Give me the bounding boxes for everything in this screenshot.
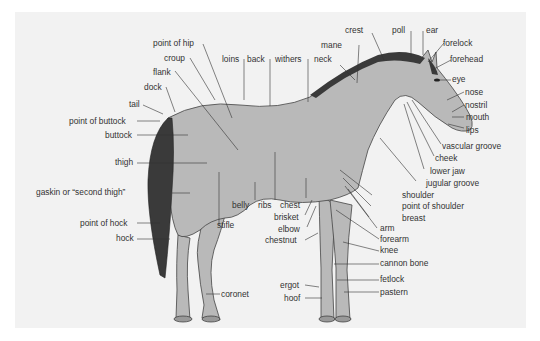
label-tail: tail — [129, 99, 140, 109]
label-breast: breast — [402, 213, 425, 223]
label-ear: ear — [426, 25, 438, 35]
label-forearm: forearm — [380, 234, 409, 244]
label-vascular-groove: vascular groove — [442, 141, 501, 151]
label-ergot: ergot — [280, 280, 299, 290]
label-stifle: stifle — [217, 220, 234, 230]
label-back: back — [247, 54, 265, 64]
label-brisket: brisket — [274, 212, 299, 222]
label-point-of-buttock: point of buttock — [69, 116, 126, 126]
label-poll: poll — [392, 25, 405, 35]
label-crest: crest — [345, 25, 363, 35]
label-point-of-hip: point of hip — [153, 38, 194, 48]
label-mane: mane — [321, 40, 342, 50]
label-dock: dock — [144, 82, 162, 92]
label-chest: chest — [280, 200, 300, 210]
label-belly: belly — [232, 200, 249, 210]
label-fetlock: fetlock — [380, 274, 404, 284]
label-nostril: nostril — [465, 100, 487, 110]
label-thigh: thigh — [115, 157, 133, 167]
label-shoulder: shoulder — [402, 190, 434, 200]
label-lower-jaw: lower jaw — [430, 166, 465, 176]
label-ribs: ribs — [258, 200, 272, 210]
label-croup: croup — [164, 53, 185, 63]
label-point-of-shoulder: point of shoulder — [402, 201, 464, 211]
label-point-of-hock: point of hock — [80, 218, 128, 228]
tail — [148, 118, 174, 278]
label-mouth: mouth — [466, 112, 489, 122]
label-buttock: buttock — [105, 130, 132, 140]
label-hoof: hoof — [284, 293, 300, 303]
label-coronet: coronet — [221, 289, 249, 299]
label-elbow: elbow — [278, 224, 300, 234]
label-flank: flank — [153, 67, 171, 77]
label-cannon-bone: cannon bone — [380, 258, 428, 268]
label-nose: nose — [465, 87, 483, 97]
label-gaskin: gaskin or “second thigh” — [36, 187, 125, 197]
label-jugular-groove: jugular groove — [426, 178, 479, 188]
label-hock: hock — [116, 233, 134, 243]
label-neck: neck — [314, 54, 332, 64]
label-eye: eye — [452, 74, 466, 84]
label-forelock: forelock — [443, 38, 472, 48]
label-withers: withers — [275, 54, 302, 64]
label-knee: knee — [380, 245, 398, 255]
label-cheek: cheek — [435, 153, 457, 163]
label-lips: lips — [466, 125, 479, 135]
label-arm: arm — [380, 223, 394, 233]
label-forehead: forehead — [450, 54, 483, 64]
label-pastern: pastern — [380, 287, 408, 297]
label-loins: loins — [222, 54, 239, 64]
label-chestnut: chestnut — [265, 235, 297, 245]
